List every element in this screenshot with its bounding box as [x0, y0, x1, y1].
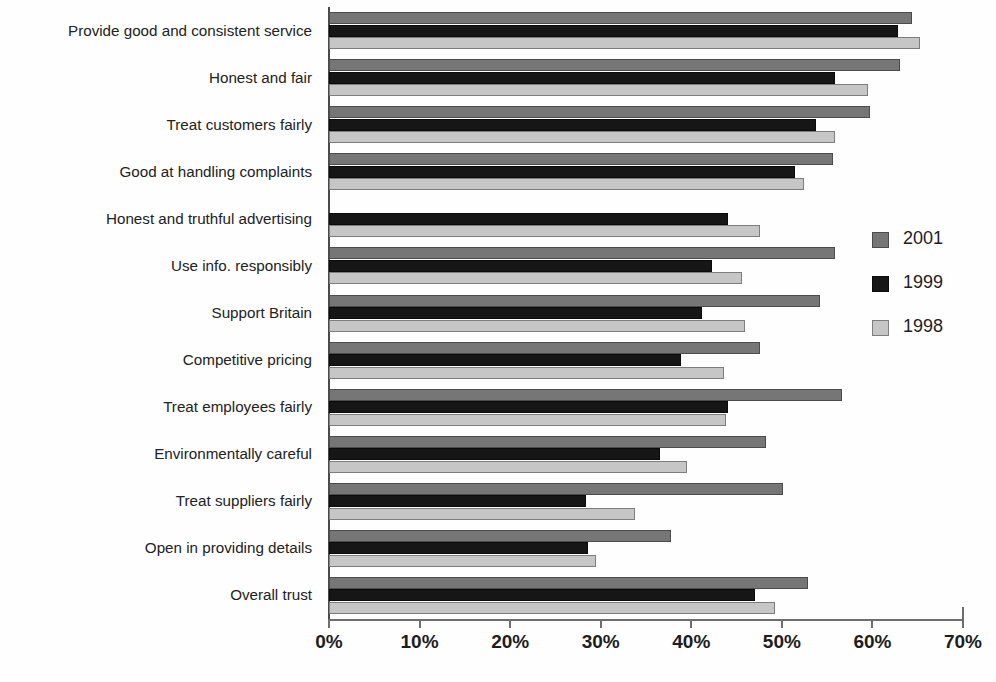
bar: [329, 367, 724, 379]
category-label: Provide good and consistent service: [0, 23, 312, 39]
bar: [329, 495, 586, 507]
bar: [329, 589, 755, 601]
bar: [329, 602, 775, 614]
bar: [329, 577, 808, 589]
bar: [329, 320, 745, 332]
x-axis-tick-label: 30%: [582, 631, 620, 653]
bar: [329, 119, 816, 131]
category-label: Use info. responsibly: [0, 258, 312, 274]
bar: [329, 213, 728, 225]
x-axis-tick-label: 40%: [672, 631, 710, 653]
bar: [329, 354, 681, 366]
bar: [329, 436, 766, 448]
x-axis-tick: [781, 619, 783, 628]
bar: [329, 84, 868, 96]
legend-item[interactable]: 1998: [872, 316, 984, 360]
bar: [329, 59, 900, 71]
legend-label: 2001: [903, 228, 943, 249]
x-axis-tick-label: 70%: [944, 631, 982, 653]
x-axis-tick: [871, 619, 873, 628]
bar: [329, 342, 760, 354]
x-axis-tick: [600, 619, 602, 628]
category-label: Treat suppliers fairly: [0, 493, 312, 509]
bar: [329, 307, 702, 319]
x-axis-tick-label: 60%: [853, 631, 891, 653]
bar: [329, 25, 898, 37]
legend-label: 1998: [903, 316, 943, 337]
bar: [329, 37, 920, 49]
category-label: Competitive pricing: [0, 352, 312, 368]
bar: [329, 272, 742, 284]
bar: [329, 153, 833, 165]
x-axis-tick: [690, 619, 692, 628]
category-label: Overall trust: [0, 587, 312, 603]
bar: [329, 542, 588, 554]
bar: [329, 260, 712, 272]
bar: [329, 295, 820, 307]
bar: [329, 12, 912, 24]
bar: [329, 461, 687, 473]
x-axis-tick: [419, 619, 421, 628]
x-axis-tick-label: 20%: [491, 631, 529, 653]
plot-area: 0%10%20%30%40%50%60%70%: [329, 7, 963, 619]
bar: [329, 401, 728, 413]
bar: [329, 225, 760, 237]
bar: [329, 483, 783, 495]
legend-item[interactable]: 2001: [872, 228, 984, 272]
x-axis-tick-label: 50%: [763, 631, 801, 653]
x-axis-tick-label: 10%: [401, 631, 439, 653]
category-label: Environmentally careful: [0, 446, 312, 462]
x-axis-tick: [328, 619, 330, 628]
bar: [329, 247, 835, 259]
bar: [329, 131, 835, 143]
x-axis-tick: [962, 619, 964, 628]
legend-swatch-icon: [872, 276, 889, 292]
category-label: Honest and fair: [0, 70, 312, 86]
x-axis-line: [328, 619, 964, 621]
bar: [329, 178, 804, 190]
legend: 200119991998: [872, 228, 984, 360]
bar: [329, 530, 671, 542]
x-axis-tick: [509, 619, 511, 628]
bar: [329, 448, 660, 460]
bar: [329, 166, 795, 178]
legend-swatch-icon: [872, 320, 889, 336]
bar: [329, 106, 870, 118]
chart-title-clipped: [0, 0, 996, 7]
category-label: Open in providing details: [0, 540, 312, 556]
category-label: Honest and truthful advertising: [0, 211, 312, 227]
bar: [329, 555, 596, 567]
legend-item[interactable]: 1999: [872, 272, 984, 316]
category-label: Support Britain: [0, 305, 312, 321]
category-axis-labels: Provide good and consistent serviceHones…: [0, 7, 322, 619]
bar: [329, 508, 635, 520]
legend-swatch-icon: [872, 232, 889, 248]
x-axis-tick-label: 0%: [315, 631, 342, 653]
category-label: Good at handling complaints: [0, 164, 312, 180]
category-label: Treat customers fairly: [0, 117, 312, 133]
bar-chart: Provide good and consistent serviceHones…: [0, 0, 996, 682]
bar: [329, 72, 835, 84]
bar: [329, 389, 842, 401]
legend-label: 1999: [903, 272, 943, 293]
bar: [329, 414, 726, 426]
category-label: Treat employees fairly: [0, 399, 312, 415]
